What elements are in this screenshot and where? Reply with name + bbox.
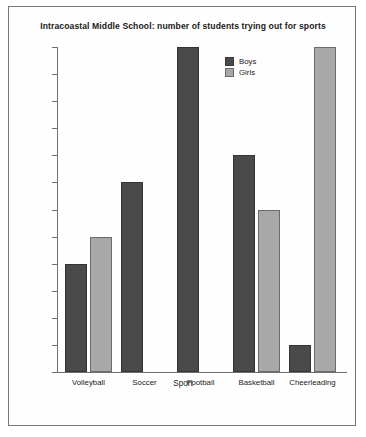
bar-group	[233, 47, 280, 372]
y-tick-mark	[52, 128, 57, 129]
y-tick-mark	[52, 318, 57, 319]
x-axis-title: Sport	[9, 379, 357, 388]
y-tick-mark	[52, 345, 57, 346]
bar-group	[121, 47, 168, 372]
bar	[233, 155, 255, 372]
y-tick-mark	[52, 155, 57, 156]
bar	[65, 264, 87, 372]
x-axis-line	[57, 372, 347, 373]
y-tick-mark	[52, 372, 57, 373]
chart-title: Intracoastal Middle School: number of st…	[9, 21, 357, 31]
y-tick-mark	[52, 182, 57, 183]
y-tick-mark	[52, 264, 57, 265]
bar-group	[65, 47, 112, 372]
chart-frame: Intracoastal Middle School: number of st…	[8, 6, 356, 426]
y-tick-mark	[52, 74, 57, 75]
y-tick-mark	[52, 210, 57, 211]
y-tick-mark	[52, 291, 57, 292]
bar-group	[177, 47, 224, 372]
bar	[90, 237, 112, 372]
y-tick-mark	[52, 101, 57, 102]
y-tick-mark	[52, 47, 57, 48]
bar	[258, 210, 280, 373]
y-axis-line	[57, 47, 58, 372]
plot-area: 051015202530354045505560 VolleyballSocce…	[57, 47, 345, 372]
bar	[121, 182, 143, 372]
bar	[289, 345, 311, 372]
bar	[177, 47, 199, 372]
bar	[314, 47, 336, 372]
bar-group	[289, 47, 336, 372]
y-tick-mark	[52, 237, 57, 238]
